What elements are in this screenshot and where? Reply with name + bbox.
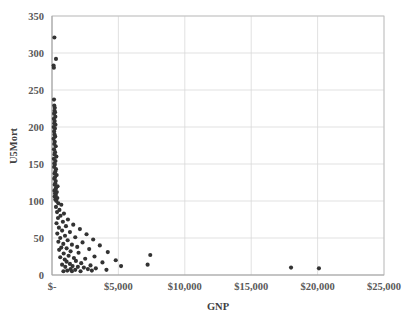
data-point: [68, 230, 72, 234]
data-point: [66, 217, 70, 221]
chart-svg: $-$5,000$10,000$15,000$20,000$25,000 050…: [0, 0, 419, 319]
data-point: [106, 250, 110, 254]
data-point: [90, 268, 94, 272]
data-point: [104, 268, 108, 272]
data-point: [82, 266, 86, 270]
data-point: [54, 57, 58, 61]
data-point: [74, 259, 78, 263]
data-point: [65, 268, 69, 272]
data-point: [56, 216, 60, 220]
data-point: [57, 248, 61, 252]
data-point: [84, 232, 88, 236]
y-axis-tick-labels: 050100150200250300350: [28, 11, 44, 281]
data-point: [56, 240, 60, 244]
data-point: [98, 243, 102, 247]
data-point: [63, 234, 67, 238]
gridlines: [52, 16, 384, 275]
data-point: [70, 269, 74, 273]
data-point: [88, 263, 92, 267]
data-point: [61, 242, 65, 246]
x-tick-label: $5,000: [104, 281, 133, 292]
data-point: [289, 266, 293, 270]
data-point: [73, 235, 77, 239]
data-point: [91, 237, 95, 241]
data-point: [94, 266, 98, 270]
data-point: [86, 267, 90, 271]
data-point: [87, 247, 91, 251]
y-tick-label: 300: [28, 48, 44, 59]
data-point: [54, 205, 58, 209]
data-point: [52, 35, 56, 39]
data-point: [100, 260, 104, 264]
x-tick-label: $20,000: [301, 281, 335, 292]
scatter-chart: $-$5,000$10,000$15,000$20,000$25,000 050…: [0, 0, 419, 319]
data-point: [92, 254, 96, 258]
data-point: [78, 227, 82, 231]
data-point: [76, 251, 80, 255]
data-point: [62, 251, 66, 255]
data-point: [70, 243, 74, 247]
y-tick-label: 250: [28, 85, 44, 96]
data-point: [62, 212, 66, 216]
data-point: [61, 269, 65, 273]
data-point: [69, 249, 73, 253]
data-point: [64, 224, 68, 228]
data-point: [83, 257, 87, 261]
data-point: [55, 231, 59, 235]
data-point: [52, 66, 56, 70]
y-tick-label: 0: [39, 270, 44, 281]
x-tick-label: $15,000: [234, 281, 268, 292]
data-point: [67, 254, 71, 258]
data-point: [148, 253, 152, 257]
data-point: [55, 210, 59, 214]
data-point: [52, 98, 56, 102]
data-point: [79, 261, 83, 265]
data-point: [58, 236, 62, 240]
data-point: [119, 264, 123, 268]
data-point: [58, 255, 62, 259]
x-axis-title: GNP: [207, 301, 230, 312]
data-point: [54, 221, 58, 225]
x-tick-label: $25,000: [367, 281, 401, 292]
data-point: [59, 203, 63, 207]
y-tick-label: 100: [28, 196, 44, 207]
data-point: [65, 246, 69, 250]
y-tick-label: 150: [28, 159, 44, 170]
data-point: [60, 229, 64, 233]
plot-frame: [52, 16, 384, 275]
x-axis-tick-labels: $-$5,000$10,000$15,000$20,000$25,000: [48, 281, 401, 292]
x-tick-label: $-: [48, 281, 57, 292]
data-point: [317, 266, 321, 270]
x-tick-label: $10,000: [168, 281, 202, 292]
data-point: [75, 245, 79, 249]
data-point: [57, 226, 61, 230]
data-point: [146, 263, 150, 267]
data-point: [78, 269, 82, 273]
y-tick-label: 50: [34, 233, 45, 244]
data-point: [63, 265, 67, 269]
y-tick-label: 200: [28, 122, 44, 133]
data-point: [61, 220, 65, 224]
plot-border: [52, 16, 384, 275]
data-point: [66, 238, 70, 242]
data-point: [114, 258, 118, 262]
y-axis-title: U5Mort: [8, 127, 19, 164]
data-point: [71, 223, 75, 227]
data-point: [80, 240, 84, 244]
y-tick-label: 350: [28, 11, 44, 22]
